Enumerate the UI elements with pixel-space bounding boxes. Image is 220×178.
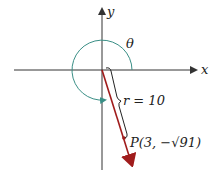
radius-label: r = 10 [123, 93, 165, 108]
theta-label: θ [126, 36, 134, 51]
x-axis-label: x [201, 62, 209, 77]
terminal-vector [102, 70, 131, 162]
point-label: P(3, −√91) [129, 135, 201, 150]
terminal-side-diagram: x y θ r = 10 P(3, −√91) [0, 0, 220, 178]
y-axis-label: y [106, 4, 115, 19]
